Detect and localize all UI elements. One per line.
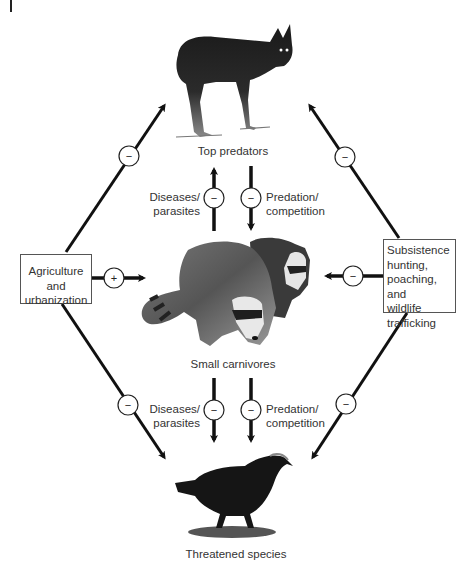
sign-circle-hunting-small: − <box>343 266 363 286</box>
small-carnivores-label: Small carnivores <box>191 357 276 371</box>
trophic-cascade-diagram: − − − − + − − <box>0 0 474 567</box>
upper-disease-label: Diseases/ parasites <box>146 190 200 218</box>
svg-text:−: − <box>211 404 217 416</box>
upper-predation-label: Predation/ competition <box>266 190 325 218</box>
hunting-poaching-box: Subsistence hunting, poaching, and wildl… <box>383 239 456 313</box>
svg-text:−: − <box>342 151 348 163</box>
agriculture-urbanization-box: Agriculture and urbanization <box>20 254 92 304</box>
hunting-to-top-arrow <box>310 106 399 238</box>
lower-disease-label: Diseases/ parasites <box>146 402 200 430</box>
sign-circle-lower-right: − <box>241 400 261 420</box>
svg-text:−: − <box>350 270 356 282</box>
lower-predation-label: Predation/ competition <box>266 402 325 430</box>
sign-circle-lower-left: − <box>204 400 224 420</box>
svg-text:−: − <box>125 399 131 411</box>
svg-text:−: − <box>126 150 132 162</box>
raccoons-icon <box>142 238 310 346</box>
top-predators-label: Top predators <box>198 144 268 158</box>
threatened-species-label: Threatened species <box>185 547 286 561</box>
svg-text:+: + <box>111 272 117 284</box>
svg-text:−: − <box>248 192 254 204</box>
agri-to-top-arrow <box>66 106 164 252</box>
svg-text:−: − <box>248 404 254 416</box>
agri-to-threatened-arrow <box>62 304 164 457</box>
crow-icon <box>175 454 293 538</box>
coyote-icon <box>176 24 293 137</box>
sign-circle-agri-small: + <box>104 268 124 288</box>
svg-text:−: − <box>211 192 217 204</box>
sign-circle-agri-threatened: − <box>118 395 138 415</box>
svg-text:−: − <box>343 398 349 410</box>
sign-circle-agri-top: − <box>119 146 139 166</box>
sign-circle-hunting-top: − <box>335 147 355 167</box>
sign-circle-hunting-threatened: − <box>336 394 356 414</box>
sign-circle-upper-left: − <box>204 188 224 208</box>
sign-circle-upper-right: − <box>241 188 261 208</box>
hunting-to-threatened-arrow <box>313 313 407 457</box>
